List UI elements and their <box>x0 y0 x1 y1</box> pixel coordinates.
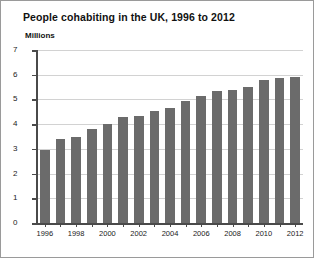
x-tick-mark <box>264 223 265 227</box>
x-tick-mark <box>170 223 171 227</box>
x-tick-mark <box>60 223 61 227</box>
x-tick-mark <box>201 223 202 227</box>
bar <box>181 101 191 223</box>
x-tick-label: 2010 <box>256 229 273 238</box>
x-tick-label: 2002 <box>130 229 147 238</box>
x-tick-mark <box>76 223 77 227</box>
x-tick-mark <box>217 223 218 227</box>
bar <box>259 80 269 223</box>
bar <box>150 111 160 223</box>
x-tick-mark <box>186 223 187 227</box>
bar <box>212 91 222 223</box>
chart-title: People cohabiting in the UK, 1996 to 201… <box>23 11 235 23</box>
x-tick-mark <box>139 223 140 227</box>
bars-layer <box>37 50 303 223</box>
bar <box>196 96 206 223</box>
x-tick-label: 2000 <box>99 229 116 238</box>
x-tick-mark <box>107 223 108 227</box>
bar <box>87 129 97 223</box>
x-tick-label: 2006 <box>193 229 210 238</box>
x-tick-label: 2004 <box>162 229 179 238</box>
chart-figure: People cohabiting in the UK, 1996 to 201… <box>0 0 314 258</box>
bar <box>103 124 113 223</box>
bar <box>56 139 66 223</box>
bar <box>275 78 285 223</box>
x-tick-label: 2012 <box>287 229 304 238</box>
bar <box>40 150 50 223</box>
x-tick-mark <box>154 223 155 227</box>
x-tick-mark <box>233 223 234 227</box>
bar <box>134 116 144 224</box>
x-tick-mark <box>248 223 249 227</box>
x-tick-label: 2008 <box>224 229 241 238</box>
bar <box>118 117 128 223</box>
x-tick-mark <box>92 223 93 227</box>
x-axis-ticks: 199619982000200220042006200820102012 <box>37 223 303 245</box>
bar <box>71 137 81 224</box>
y-axis-unit-label: Millions <box>25 31 55 40</box>
bar <box>290 77 300 223</box>
x-tick-mark <box>45 223 46 227</box>
x-tick-label: 1996 <box>36 229 53 238</box>
bar <box>228 90 238 223</box>
x-tick-mark <box>295 223 296 227</box>
x-tick-mark <box>123 223 124 227</box>
bar <box>243 87 253 223</box>
x-tick-label: 1998 <box>68 229 85 238</box>
x-tick-mark <box>280 223 281 227</box>
bar <box>165 108 175 223</box>
